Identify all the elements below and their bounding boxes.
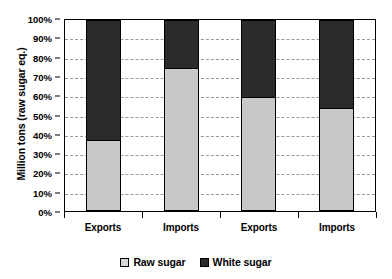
chart-legend: Raw sugarWhite sugar — [0, 256, 392, 268]
legend-item-label: White sugar — [213, 256, 272, 268]
y-axis-tick-mark — [55, 76, 60, 77]
bar-segment-white-sugar[interactable] — [87, 21, 120, 140]
y-axis-tick-mark — [55, 19, 60, 20]
legend-item[interactable]: Raw sugar — [120, 256, 185, 268]
stacked-bar[interactable] — [86, 20, 121, 211]
y-axis-tick-mark — [55, 192, 60, 193]
plot-area — [64, 19, 376, 212]
y-axis-tick-label: 50% — [0, 110, 52, 121]
y-axis-tick-label: 100% — [0, 14, 52, 25]
bar-segment-white-sugar[interactable] — [242, 21, 275, 97]
y-axis-tick-mark — [55, 154, 60, 155]
stacked-bar[interactable] — [241, 20, 276, 211]
y-axis-tick-mark — [55, 134, 60, 135]
bar-segment-raw-sugar[interactable] — [242, 97, 275, 210]
bar-groups — [65, 20, 375, 211]
y-axis-tick-labels: 100%90%80%70%60%50%40%30%20%10%0% — [0, 19, 60, 212]
x-axis-category-label: Exports — [220, 222, 298, 233]
x-axis-tick-labels: ExportsImportsExportsImports — [64, 222, 376, 233]
y-axis-tick-mark — [55, 173, 60, 174]
bar-group — [298, 20, 376, 211]
y-axis-tick-label: 30% — [0, 149, 52, 160]
y-axis-tick-label: 60% — [0, 91, 52, 102]
bar-segment-white-sugar[interactable] — [320, 21, 353, 108]
light-gray-square-icon — [120, 258, 129, 267]
stacked-bar[interactable] — [164, 20, 199, 211]
y-axis-tick-mark — [55, 115, 60, 116]
dark-square-icon — [200, 258, 209, 267]
x-axis-ticks — [64, 212, 376, 219]
y-axis-tick-label: 90% — [0, 33, 52, 44]
x-axis-category-label: Exports — [64, 222, 142, 233]
legend-item-label: Raw sugar — [133, 256, 185, 268]
x-axis-tick-mark — [298, 212, 299, 218]
y-axis-tick-label: 40% — [0, 129, 52, 140]
stacked-bar-chart: Million tons (raw sugar eq.) 100%90%80%7… — [0, 0, 392, 279]
bar-segment-white-sugar[interactable] — [165, 21, 198, 68]
x-axis-category-label: Imports — [142, 222, 220, 233]
y-axis-tick-mark — [55, 212, 60, 213]
x-axis-category-label: Imports — [298, 222, 376, 233]
y-axis-tick-label: 80% — [0, 52, 52, 63]
y-axis-tick-label: 70% — [0, 71, 52, 82]
legend-item[interactable]: White sugar — [200, 256, 272, 268]
y-axis-tick-label: 0% — [0, 207, 52, 218]
bar-segment-raw-sugar[interactable] — [87, 140, 120, 210]
x-axis-tick-mark — [142, 212, 143, 218]
bar-segment-raw-sugar[interactable] — [165, 68, 198, 210]
y-axis-tick-mark — [55, 57, 60, 58]
bar-segment-raw-sugar[interactable] — [320, 108, 353, 210]
y-axis-tick-mark — [55, 96, 60, 97]
x-axis-tick-mark — [64, 212, 65, 218]
y-axis-tick-mark — [55, 38, 60, 39]
bar-group — [65, 20, 143, 211]
stacked-bar[interactable] — [319, 20, 354, 211]
x-axis-tick-mark — [220, 212, 221, 218]
y-axis-tick-label: 10% — [0, 187, 52, 198]
bar-group — [220, 20, 298, 211]
x-axis-tick-mark — [376, 212, 377, 218]
bar-group — [143, 20, 221, 211]
y-axis-tick-label: 20% — [0, 168, 52, 179]
